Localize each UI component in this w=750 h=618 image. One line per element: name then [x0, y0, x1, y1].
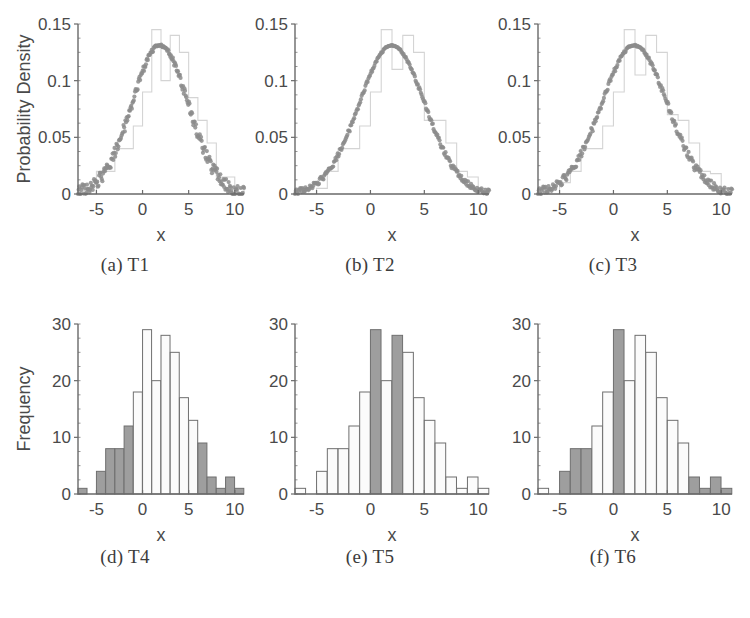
histogram-bar [700, 488, 711, 494]
histogram-bar [560, 471, 571, 494]
panel-t2: 00.050.10.15-50510x (b) T2 [245, 8, 495, 308]
y-tick-label: 0.1 [264, 72, 288, 91]
x-tick-label: -5 [309, 500, 324, 519]
x-tick-label: -5 [89, 500, 104, 519]
panel-t6: 0102030-50510x (f) T6 [488, 308, 738, 608]
panel-t1-svg: 00.050.10.15-50510xProbability Density [0, 8, 250, 256]
y-tick-label: 10 [269, 428, 288, 447]
plot-area-t3: 00.050.10.15-50510x [488, 8, 738, 256]
y-tick-label: 20 [269, 372, 288, 391]
x-tick-label: 10 [225, 200, 244, 219]
histogram-bar [424, 420, 435, 494]
histogram-bar [216, 488, 225, 494]
x-tick-label: 10 [712, 200, 731, 219]
histogram-bar [327, 449, 338, 494]
x-tick-label: 5 [663, 200, 672, 219]
y-tick-label: 0.15 [498, 15, 531, 34]
histogram-bar [667, 420, 678, 494]
panel-caption-t5: (e) T5 [245, 546, 495, 568]
histogram-bar [338, 449, 349, 494]
histogram-bar [106, 449, 115, 494]
histogram-bar [317, 471, 328, 494]
histogram-bar [538, 488, 549, 494]
x-axis-label: x [631, 525, 640, 545]
plot-area-t2: 00.050.10.15-50510x [245, 8, 495, 256]
panel-t2-svg: 00.050.10.15-50510x [245, 8, 495, 256]
x-tick-label: 5 [663, 500, 672, 519]
x-tick-label: 0 [366, 500, 375, 519]
plot-area-t5: 0102030-50510x [245, 308, 495, 556]
panel-t4-svg: 0102030-50510xFrequency [0, 308, 250, 556]
y-tick-label: 0.05 [498, 128, 531, 147]
x-tick-label: -5 [552, 200, 567, 219]
histogram-bar [403, 352, 414, 494]
x-axis-label: x [388, 225, 397, 245]
histogram-bar [189, 420, 198, 494]
panel-t4: 0102030-50510xFrequency (d) T4 [0, 308, 250, 608]
x-tick-label: 5 [420, 500, 429, 519]
y-tick-label: 0 [522, 485, 531, 504]
y-tick-label: 0 [62, 185, 71, 204]
histogram-bar [592, 426, 603, 494]
x-axis-label: x [157, 225, 166, 245]
y-axis-label: Frequency [14, 366, 34, 451]
histogram-bar [152, 381, 161, 494]
histogram-bar [435, 443, 446, 494]
histogram-bar [646, 352, 657, 494]
histogram-bar [360, 392, 371, 494]
x-tick-label: 5 [184, 200, 193, 219]
y-tick-label: 0 [522, 185, 531, 204]
x-tick-label: 10 [469, 500, 488, 519]
y-tick-label: 20 [512, 372, 531, 391]
panel-t5-svg: 0102030-50510x [245, 308, 495, 556]
histogram-bar [179, 398, 188, 494]
x-axis-label: x [157, 525, 166, 545]
x-tick-label: -5 [552, 500, 567, 519]
panel-t5: 0102030-50510x (e) T5 [245, 308, 495, 608]
x-tick-label: 0 [609, 200, 618, 219]
figure-panel-grid: 00.050.10.15-50510xProbability Density (… [0, 0, 750, 618]
figure-row-bottom: 0102030-50510xFrequency (d) T4 0102030-5… [0, 308, 750, 608]
panel-t6-svg: 0102030-50510x [488, 308, 738, 556]
x-tick-label: 5 [420, 200, 429, 219]
histogram-bar [613, 330, 624, 494]
histogram-bar [295, 488, 306, 494]
y-axis-label: Probability Density [14, 34, 34, 183]
histogram-bar [96, 471, 105, 494]
histogram-bar [635, 335, 646, 494]
y-tick-label: 30 [269, 315, 288, 334]
x-tick-label: 10 [225, 500, 244, 519]
x-tick-label: 0 [138, 200, 147, 219]
histogram-bar [349, 426, 360, 494]
x-tick-label: 10 [469, 200, 488, 219]
histogram-bar [161, 335, 170, 494]
histogram-bar [710, 477, 721, 494]
y-tick-label: 10 [512, 428, 531, 447]
histogram-bar [467, 477, 478, 494]
histogram-bar [657, 398, 668, 494]
histogram-bar [678, 443, 689, 494]
y-tick-label: 0 [62, 485, 71, 504]
histogram-bar [414, 398, 425, 494]
y-tick-label: 0.05 [38, 128, 71, 147]
y-tick-label: 30 [52, 315, 71, 334]
y-tick-label: 0.15 [38, 15, 71, 34]
histogram-bar [115, 449, 124, 494]
y-tick-label: 0.1 [507, 72, 531, 91]
histogram-bar [603, 392, 614, 494]
histogram-bar [689, 477, 700, 494]
plot-area-t1: 00.050.10.15-50510xProbability Density [0, 8, 250, 256]
y-tick-label: 0.05 [255, 128, 288, 147]
panel-caption-t4: (d) T4 [0, 546, 250, 568]
figure-row-top: 00.050.10.15-50510xProbability Density (… [0, 8, 750, 308]
histogram-bar [581, 449, 592, 494]
y-tick-label: 0 [279, 485, 288, 504]
x-tick-label: 0 [609, 500, 618, 519]
panel-caption-t6: (f) T6 [488, 546, 738, 568]
y-tick-label: 20 [52, 372, 71, 391]
panel-caption-t1: (a) T1 [0, 254, 250, 276]
panel-t3-svg: 00.050.10.15-50510x [488, 8, 738, 256]
histogram-bar [392, 335, 403, 494]
y-tick-label: 0 [279, 185, 288, 204]
panel-t3: 00.050.10.15-50510x (c) T3 [488, 8, 738, 308]
